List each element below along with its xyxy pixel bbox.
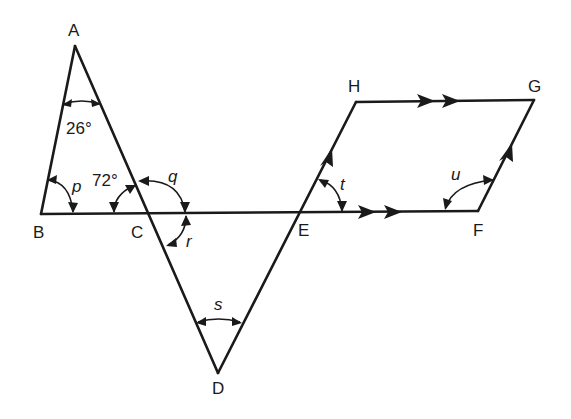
arc-angle-q-head-right — [180, 202, 190, 213]
label-point-g: G — [528, 77, 541, 96]
arc-angle-r-head-bottom — [166, 238, 177, 247]
point-labels: A B C D E F G H — [33, 21, 541, 398]
arc-angle-acb-head-bottom — [109, 202, 119, 213]
segment-bf — [41, 211, 478, 214]
arc-angle-s-head-right — [232, 317, 242, 326]
label-point-a: A — [68, 21, 80, 40]
label-angle-t: t — [340, 175, 346, 194]
label-angle-r: r — [186, 232, 193, 251]
label-angle-s: s — [214, 295, 223, 314]
arc-angle-q-head-left — [138, 176, 149, 186]
label-point-d: D — [212, 379, 224, 398]
label-angle-a: 26° — [66, 119, 92, 138]
label-angle-p: p — [71, 177, 81, 196]
label-angle-u: u — [451, 165, 461, 184]
label-point-e: E — [298, 221, 309, 240]
arc-angle-p — [48, 180, 73, 212]
label-angle-q: q — [168, 167, 178, 186]
label-point-h: H — [348, 77, 360, 96]
segment-ad — [75, 46, 218, 373]
arc-angle-r — [168, 216, 186, 245]
geometry-diagram: A B C D E F G H 26° 72° p q r s t u — [0, 0, 571, 419]
segment-dh — [218, 102, 356, 373]
arc-angle-r-head-top — [181, 215, 191, 226]
parallel-arrow-eh — [320, 148, 333, 167]
arc-angle-u-head-bottom — [443, 198, 452, 210]
label-point-c: C — [131, 223, 143, 242]
arc-angle-p-head-bottom — [68, 202, 78, 213]
segment-hg — [356, 100, 534, 102]
label-point-f: F — [473, 221, 483, 240]
parallel-arrow-fg — [499, 143, 513, 162]
label-angle-acb: 72° — [92, 171, 118, 190]
arc-angle-t-head-bottom — [337, 201, 347, 212]
label-point-b: B — [33, 223, 44, 242]
